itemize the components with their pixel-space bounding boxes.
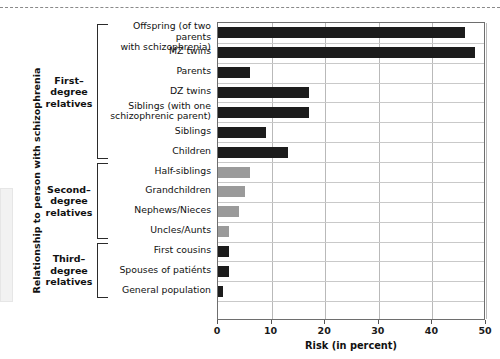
bar [218,246,229,257]
bar [218,47,475,58]
category-label-column: Offspring (of two parentswith schizophre… [104,22,215,320]
x-axis-ticks: 01020304050 [217,320,485,334]
x-tick-mark [378,320,379,324]
category-label: Grandchildren [104,185,211,196]
x-tick-label: 20 [318,325,331,336]
bar [218,266,229,277]
x-axis-title: Risk (in percent) [217,340,485,351]
category-label: Uncles/Aunts [104,225,211,236]
category-label-line: Children [104,146,211,157]
category-label: Half-siblings [104,166,211,177]
group-label-third-degree-relatives: Third–degreerelatives [40,253,98,288]
category-label-line: Uncles/Aunts [104,225,211,236]
group-label-second-degree-relatives: Second–degreerelatives [40,184,98,219]
chart-figure: Relationship to person with schizophreni… [0,0,500,359]
category-label-line: General population [104,285,211,296]
category-label: DZ twins [104,86,211,97]
row-separator [218,43,484,44]
category-label: Spouses of patiénts [104,265,211,276]
category-label-line: Offspring (of two parents [104,21,211,42]
gridline-x-30 [379,23,380,319]
gridline-x-40 [432,23,433,319]
category-label: Siblings [104,126,211,137]
category-label-line: Half-siblings [104,166,211,177]
category-label-line: DZ twins [104,86,211,97]
group-label-line: relatives [40,207,98,219]
row-separator [218,83,484,84]
category-label-line: schizophrenic parent) [104,111,211,122]
row-separator [218,242,484,243]
x-tick-label: 50 [478,325,491,336]
x-tick-label: 10 [264,325,277,336]
category-label: First cousins [104,245,211,256]
group-label-first-degree-relatives: First–degreerelatives [40,75,98,110]
category-label: General population [104,285,211,296]
category-label: MZ twins [104,46,211,57]
x-tick-mark [324,320,325,324]
category-label-line: Siblings [104,126,211,137]
scan-artifact-box [0,188,13,302]
x-tick-label: 30 [371,325,384,336]
group-label-column: First–degreerelativesSecond–degreerelati… [40,22,98,320]
row-separator [218,122,484,123]
bar [218,167,250,178]
category-label: Children [104,146,211,157]
group-label-line: First– [40,75,98,87]
group-label-line: relatives [40,276,98,288]
row-separator [218,281,484,282]
bar [218,286,223,297]
x-tick-mark [217,320,218,324]
group-label-line: Third– [40,253,98,265]
bar [218,206,239,217]
category-label-line: MZ twins [104,46,211,57]
bar [218,87,309,98]
row-separator [218,102,484,103]
group-label-line: Second– [40,184,98,196]
row-separator [218,162,484,163]
bar [218,226,229,237]
category-label: Parents [104,66,211,77]
page-cut-dashed-line [0,7,500,8]
row-separator [218,182,484,183]
bar [218,127,266,138]
group-label-line: degree [40,195,98,207]
category-label-line: Nephews/Nieces [104,205,211,216]
row-separator [218,301,484,302]
category-label-line: Grandchildren [104,185,211,196]
group-label-line: degree [40,86,98,98]
bar [218,147,288,158]
bar [218,107,309,118]
gridline-x-20 [325,23,326,319]
row-separator [218,142,484,143]
bar [218,67,250,78]
group-label-line: relatives [40,98,98,110]
category-label-line: Parents [104,66,211,77]
category-label-line: First cousins [104,245,211,256]
row-separator [218,222,484,223]
x-tick-mark [271,320,272,324]
bar [218,186,245,197]
x-tick-mark [485,320,486,324]
row-separator [218,202,484,203]
bar [218,27,465,38]
x-tick-label: 40 [425,325,438,336]
gridline-x-50 [486,23,487,319]
x-tick-mark [431,320,432,324]
category-label: Siblings (with oneschizophrenic parent) [104,101,211,122]
x-tick-label: 0 [214,325,221,336]
category-label: Nephews/Nieces [104,205,211,216]
group-label-line: degree [40,265,98,277]
category-label-line: Spouses of patiénts [104,265,211,276]
gridline-x-10 [272,23,273,319]
plot-area [217,22,485,320]
row-separator [218,63,484,64]
row-separator [218,261,484,262]
